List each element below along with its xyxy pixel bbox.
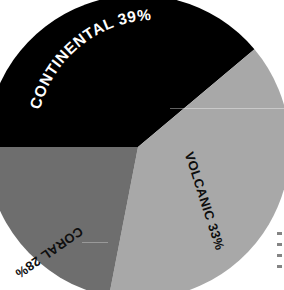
pie-slices: [0, 0, 284, 290]
pie-chart: CONTINENTAL 39% VOLCANIC 33% CORAL 28%: [0, 0, 284, 290]
pie-chart-svg: [0, 0, 284, 290]
